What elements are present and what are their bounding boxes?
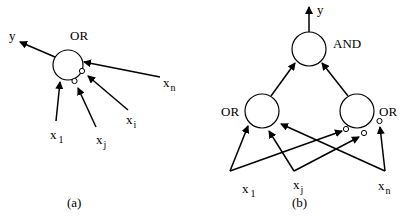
input-label-xn-b: xn [378, 178, 391, 196]
input-label-xn: xn [163, 75, 176, 93]
or-node-right [340, 94, 374, 128]
output-label-b: y [317, 2, 324, 17]
caption-b: (b) [292, 195, 307, 210]
edge-xj-to-right-or [294, 137, 359, 171]
negation-bubble-xj-b [361, 130, 366, 135]
negation-bubble-xi [79, 68, 84, 73]
input-label-x1-b: x1 [242, 181, 256, 199]
or-node-left [245, 94, 279, 128]
negation-bubble-x1 [343, 126, 348, 131]
negation-bubble-xj [72, 78, 77, 83]
edge-right-or-to-and [322, 63, 348, 96]
caption-a: (a) [67, 195, 81, 210]
edge-xn-to-right-or [380, 127, 385, 171]
or-node [53, 50, 83, 80]
and-node-label: AND [333, 36, 361, 51]
and-node [292, 32, 326, 66]
panel-b: AND y OR OR x1 xj xn (b) [221, 2, 397, 210]
or-node-left-label: OR [221, 104, 239, 119]
input-arrow-xj [78, 88, 96, 127]
panel-a: OR y x1 xj xi xn (a) [9, 28, 176, 210]
input-label-x1: x1 [50, 127, 64, 145]
edge-xj-to-left-or [269, 131, 294, 171]
input-arrow-x1 [56, 82, 60, 121]
input-arrow-xn [84, 62, 160, 77]
edge-x1-to-right-or [230, 131, 342, 171]
input-label-xj-b: xj [293, 177, 303, 195]
input-label-xi: xi [126, 112, 137, 130]
or-node-right-label: OR [379, 104, 397, 119]
input-arrow-xi [88, 76, 128, 110]
negation-bubble-xn [377, 118, 382, 123]
edge-left-or-to-and [271, 63, 295, 96]
logic-network-diagram: OR y x1 xj xi xn (a) AND y OR OR [0, 0, 412, 218]
edge-x1-to-left-or [230, 126, 248, 171]
output-label: y [9, 28, 16, 43]
input-label-xj: xj [96, 132, 106, 150]
output-arrow [20, 42, 55, 57]
or-node-label: OR [70, 28, 88, 43]
